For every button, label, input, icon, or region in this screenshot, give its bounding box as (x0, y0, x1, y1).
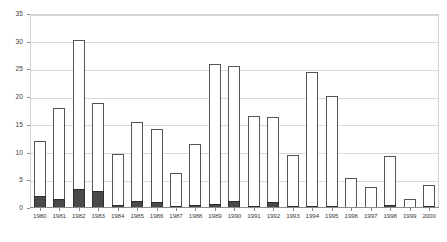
x-axis-label-slot: 1983 (88, 212, 107, 220)
bar-segment-upper (209, 64, 221, 204)
y-axis-tick-label: 10 (0, 149, 23, 156)
bar-1991 (248, 116, 260, 208)
x-axis-tick (293, 207, 294, 211)
x-axis-tick-label: 1987 (166, 212, 185, 220)
x-axis-tick (234, 207, 235, 211)
x-axis-tick-label: 1981 (49, 212, 68, 220)
bar-segment-upper (326, 96, 338, 206)
bar-slot (127, 14, 146, 208)
x-axis-label-slot: 1994 (303, 212, 322, 220)
x-axis-label-slot: 1999 (400, 212, 419, 220)
bar-segment-upper (34, 141, 46, 196)
x-axis-tick (195, 207, 196, 211)
y-axis-tick-label: 20 (0, 93, 23, 100)
bar-1983 (92, 103, 104, 208)
bar-segment-upper (267, 117, 279, 203)
bar-slot (303, 14, 322, 208)
x-axis-tick (176, 207, 177, 211)
x-axis-tick (254, 207, 255, 211)
x-axis-tick-label: 1999 (400, 212, 419, 220)
x-axis-tick-label: 1989 (205, 212, 224, 220)
bar-segment-upper (189, 144, 201, 204)
bar-slot (283, 14, 302, 208)
bar-segment-upper (151, 129, 163, 203)
bar-slot (225, 14, 244, 208)
bar-segment-upper (287, 155, 299, 206)
x-axis-tick (157, 207, 158, 211)
x-axis-label-slot: 1987 (166, 212, 185, 220)
bar-slot (88, 14, 107, 208)
x-axis-tick (312, 207, 313, 211)
bar-1981 (53, 108, 65, 208)
bar-segment-upper (131, 122, 143, 201)
bar-1984 (112, 154, 124, 208)
x-axis-tick (79, 207, 80, 211)
y-axis-tick-label: 0 (0, 204, 23, 211)
bar-segment-upper (112, 154, 124, 206)
x-axis-tick-label: 1986 (147, 212, 166, 220)
x-axis-label-slot: 1980 (30, 212, 49, 220)
bar-1986 (151, 129, 163, 208)
x-axis-tick (429, 207, 430, 211)
x-axis-tick (273, 207, 274, 211)
bar-slot (147, 14, 166, 208)
x-axis-tick (215, 207, 216, 211)
x-axis-label-slot: 1988 (186, 212, 205, 220)
x-axis-label-slot: 1984 (108, 212, 127, 220)
y-axis-tick-label: 35 (0, 10, 23, 17)
x-axis-tick-label: 1993 (283, 212, 302, 220)
bars-layer (30, 14, 439, 208)
x-axis-tick-label: 1980 (30, 212, 49, 220)
x-axis-label-slot: 1981 (49, 212, 68, 220)
x-axis-tick (332, 207, 333, 211)
x-axis-label-slot: 1995 (322, 212, 341, 220)
bar-1985 (131, 122, 143, 208)
y-axis-tick-label: 5 (0, 176, 23, 183)
bar-segment-upper (345, 178, 357, 208)
bar-segment-upper (365, 187, 377, 208)
x-axis-label-slot: 1992 (264, 212, 283, 220)
x-axis-tick-label: 1992 (264, 212, 283, 220)
x-axis-tick-label: 1994 (303, 212, 322, 220)
bar-segment-upper (384, 156, 396, 205)
bar-segment-upper (423, 185, 435, 206)
bar-slot (380, 14, 399, 208)
bar-segment-upper (92, 103, 104, 192)
bar-slot (108, 14, 127, 208)
bar-1982 (73, 40, 85, 208)
bar-slot (419, 14, 438, 208)
bar-slot (322, 14, 341, 208)
bar-segment-upper (248, 116, 260, 206)
x-axis-label-slot: 1990 (225, 212, 244, 220)
bar-1988 (189, 144, 201, 208)
x-axis-label-slot: 1986 (147, 212, 166, 220)
bar-1998 (384, 156, 396, 208)
bar-segment-upper (170, 173, 182, 205)
x-axis-tick-label: 1997 (361, 212, 380, 220)
x-axis-tick-label: 2000 (419, 212, 438, 220)
x-axis-tick-label: 1982 (69, 212, 88, 220)
bar-1997 (365, 187, 377, 208)
bar-segment-upper (228, 66, 240, 202)
x-axis-labels: 1980198119821983198419851986198719881989… (30, 212, 439, 220)
x-axis-tick (351, 207, 352, 211)
x-axis-tick-label: 1988 (186, 212, 205, 220)
bar-segment-upper (306, 72, 318, 205)
bar-2000 (423, 185, 435, 208)
stacked-bar-chart: 05101520253035 1980198119821983198419851… (0, 0, 447, 242)
bar-slot (69, 14, 88, 208)
x-axis-label-slot: 2000 (419, 212, 438, 220)
x-axis-tick (118, 207, 119, 211)
bar-slot (49, 14, 68, 208)
x-axis-tick (40, 207, 41, 211)
bar-1994 (306, 72, 318, 208)
x-axis-tick (390, 207, 391, 211)
x-axis-tick (59, 207, 60, 211)
x-axis-tick-label: 1984 (108, 212, 127, 220)
bar-1996 (345, 178, 357, 208)
x-axis-label-slot: 1985 (127, 212, 146, 220)
bar-slot (205, 14, 224, 208)
bar-segment-upper (73, 40, 85, 189)
y-axis-tick-label: 30 (0, 38, 23, 45)
x-axis-label-slot: 1991 (244, 212, 263, 220)
